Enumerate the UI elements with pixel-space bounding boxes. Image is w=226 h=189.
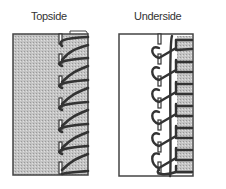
underside-panel xyxy=(119,34,193,176)
topside-panel xyxy=(13,31,88,175)
stitch-diagram xyxy=(0,0,226,189)
